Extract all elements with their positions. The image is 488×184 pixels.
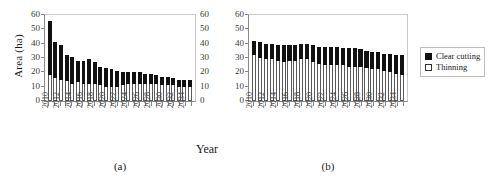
legend-swatch-thinning-icon xyxy=(425,64,432,71)
x-tick-label-2020: 2020 xyxy=(98,92,107,108)
bar-segment-clear-cutting xyxy=(329,47,333,66)
bar-segment-clear-cutting xyxy=(160,77,164,86)
y-tick-label-right-30: 30 xyxy=(200,52,209,62)
bar-segment-clear-cutting xyxy=(364,51,368,68)
stacked-bar xyxy=(48,21,52,101)
x-axis-labels-b: 2010201220142016201820202022202420262028… xyxy=(248,107,408,135)
x-tick-mark xyxy=(400,102,406,106)
x-tick-label-2028: 2028 xyxy=(353,92,362,108)
x-tick-mark xyxy=(188,102,194,106)
plot-area-a xyxy=(44,14,196,102)
x-tick-label-2026: 2026 xyxy=(341,92,350,108)
bar-segment-clear-cutting xyxy=(287,45,291,61)
x-tick-label-2030: 2030 xyxy=(155,92,164,108)
bar-segment-clear-cutting xyxy=(382,54,386,71)
bar-segment-clear-cutting xyxy=(166,77,170,86)
x-tick-label-cell xyxy=(400,107,406,135)
bar-segment-clear-cutting xyxy=(82,61,86,84)
bar-segment-clear-cutting xyxy=(305,44,309,60)
bar-segment-clear-cutting xyxy=(93,62,97,84)
stacked-bar xyxy=(188,80,192,101)
x-tick-label-2030: 2030 xyxy=(365,92,374,108)
x-tick-label-2018: 2018 xyxy=(86,92,95,108)
x-tick-label-2012: 2012 xyxy=(52,92,61,108)
bar-segment-clear-cutting xyxy=(76,61,80,83)
x-tick-label-2018: 2018 xyxy=(293,92,302,108)
x-tick-label-2016: 2016 xyxy=(281,92,290,108)
x-tick-label-2012: 2012 xyxy=(257,92,266,108)
bar-segment-clear-cutting xyxy=(353,48,357,67)
caption-b: (b) xyxy=(248,160,408,172)
bar-segment-clear-cutting xyxy=(53,42,57,78)
bar-segment-clear-cutting xyxy=(188,80,192,87)
y-tick-label-right-60: 60 xyxy=(200,9,209,19)
bar-segment-clear-cutting xyxy=(323,47,327,66)
x-tick-label-2022: 2022 xyxy=(317,92,326,108)
y-tick-mark xyxy=(41,14,44,15)
bar-segment-clear-cutting xyxy=(394,55,398,74)
bar-segment-thinning xyxy=(188,87,192,101)
bar-segment-clear-cutting xyxy=(143,74,147,84)
x-tick-label-2020: 2020 xyxy=(305,92,314,108)
bar-segment-clear-cutting xyxy=(341,48,345,65)
legend: Clear cutting Thinning xyxy=(420,47,485,77)
bar-segment-clear-cutting xyxy=(258,42,262,58)
bar-segment-clear-cutting xyxy=(87,59,91,83)
stacked-bar xyxy=(400,55,404,101)
y-tick-label-right-0: 0 xyxy=(200,95,205,105)
bar-2035 xyxy=(187,15,193,101)
plot-area-b xyxy=(248,14,408,102)
bar-segment-clear-cutting xyxy=(104,68,108,87)
bar-segment-clear-cutting xyxy=(358,49,362,66)
bar-segment-clear-cutting xyxy=(115,71,119,87)
x-axis-labels-a: 2010201220142016201820202022202420262028… xyxy=(44,107,196,135)
y-tick-label-right-50: 50 xyxy=(200,23,209,33)
x-tick-label-2014: 2014 xyxy=(269,92,278,108)
x-tick-label-2024: 2024 xyxy=(329,92,338,108)
bar-segment-clear-cutting xyxy=(182,80,186,87)
y-tick-mark xyxy=(41,71,44,72)
x-tick-label-2032: 2032 xyxy=(166,92,175,108)
bar-segment-clear-cutting xyxy=(121,72,125,85)
y-tick-mark xyxy=(245,28,248,29)
legend-swatch-clear-cutting-icon xyxy=(425,53,432,60)
y-tick-mark xyxy=(245,14,248,15)
bar-segment-clear-cutting xyxy=(177,80,181,87)
caption-a: (a) xyxy=(44,160,196,172)
bar-segment-clear-cutting xyxy=(299,44,303,60)
bar-segment-clear-cutting xyxy=(264,44,268,60)
y-tick-mark xyxy=(41,86,44,87)
legend-label-thinning: Thinning xyxy=(436,62,467,73)
bar-segment-clear-cutting xyxy=(132,72,136,83)
bar-segment-clear-cutting xyxy=(252,41,256,55)
bar-segment-clear-cutting xyxy=(70,57,74,84)
bar-segment-clear-cutting xyxy=(138,72,142,83)
bar-segment-clear-cutting xyxy=(317,47,321,64)
x-tick-label-cell xyxy=(188,107,194,135)
y-tick-mark xyxy=(245,43,248,44)
y-tick-mark xyxy=(245,57,248,58)
x-tick-label-2024: 2024 xyxy=(120,92,129,108)
y-tick-label-right-40: 40 xyxy=(200,38,209,48)
legend-item-clear-cutting: Clear cutting xyxy=(425,51,480,62)
bar-segment-clear-cutting xyxy=(347,48,351,67)
bar-segment-clear-cutting xyxy=(282,45,286,62)
y-tick-label-right-20: 20 xyxy=(200,66,209,76)
bar-segment-clear-cutting xyxy=(149,74,153,84)
bar-segment-clear-cutting xyxy=(126,72,130,83)
bar-segment-clear-cutting xyxy=(276,45,280,61)
y-tick-mark xyxy=(245,86,248,87)
x-tick-label-2014: 2014 xyxy=(64,92,73,108)
bar-2035 xyxy=(399,15,405,101)
bar-segment-clear-cutting xyxy=(154,75,158,84)
bar-segment-clear-cutting xyxy=(293,45,297,61)
bar-segment-clear-cutting xyxy=(171,78,175,85)
legend-label-clear-cutting: Clear cutting xyxy=(436,51,480,62)
x-tick-label-2034: 2034 xyxy=(389,92,398,108)
x-tick-label-2026: 2026 xyxy=(132,92,141,108)
bar-segment-clear-cutting xyxy=(59,45,63,79)
y-tick-label-right-10: 10 xyxy=(200,81,209,91)
x-tick-label-2028: 2028 xyxy=(143,92,152,108)
bar-segment-clear-cutting xyxy=(110,69,114,86)
bar-segment-clear-cutting xyxy=(388,54,392,73)
